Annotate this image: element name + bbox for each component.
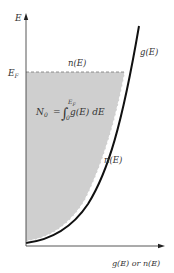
y-axis-arrow-icon — [24, 13, 28, 20]
density-of-states-diagram: E EF n(E) g(E) n(E) N0 = ∫ 0 EF g(E) dE … — [0, 0, 174, 273]
x-axis-arrow-icon — [158, 244, 165, 248]
x-axis-label: g(E) or n(E) — [112, 259, 160, 268]
n-curve-side-label: n(E) — [104, 155, 122, 165]
n-curve-top-label: n(E) — [68, 58, 86, 68]
svg-text:g(E) dE: g(E) dE — [70, 107, 105, 117]
g-curve-label: g(E) — [140, 47, 158, 57]
y-axis-label: E — [14, 13, 22, 23]
fermi-level-label: EF — [7, 68, 20, 79]
svg-text:=: = — [53, 107, 61, 117]
